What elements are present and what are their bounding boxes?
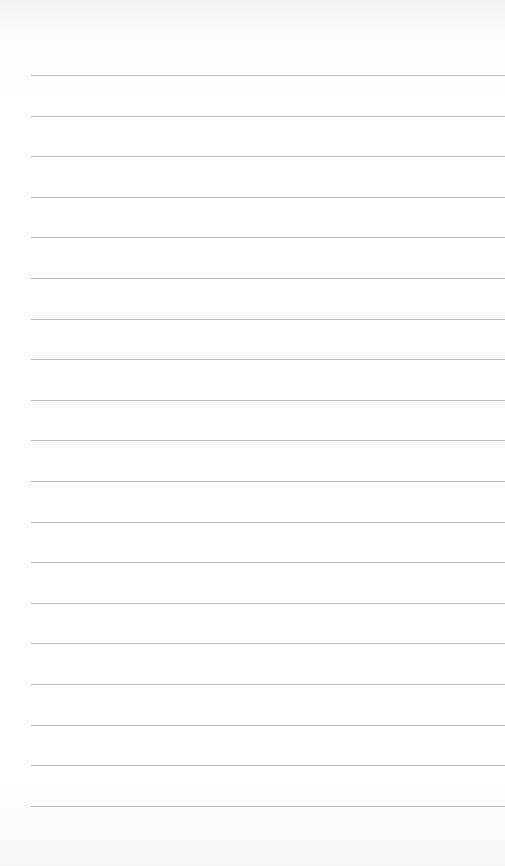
ruled-line [31,481,505,482]
ruled-line [31,156,505,157]
ruled-line [31,75,505,76]
ruled-line [31,237,505,238]
ruled-line [31,440,505,441]
ruled-line [31,562,505,563]
ruled-line [31,319,505,320]
lined-paper [0,0,505,866]
ruled-line [31,603,505,604]
ruled-line [31,359,505,360]
ruled-line [31,765,505,766]
ruled-line [31,116,505,117]
ruled-line [31,400,505,401]
ruled-line [31,725,505,726]
ruled-line [31,643,505,644]
ruled-line [31,684,505,685]
ruled-line [31,806,505,807]
ruled-line [31,522,505,523]
ruled-line [31,197,505,198]
ruled-line [31,278,505,279]
